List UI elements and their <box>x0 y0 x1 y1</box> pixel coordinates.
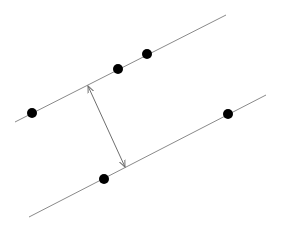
upper-point-3 <box>142 49 152 59</box>
parallel-lines-diagram <box>0 0 286 225</box>
lower-point-1 <box>99 174 109 184</box>
margin-double-arrow-icon <box>88 86 125 167</box>
upper-point-2 <box>113 64 123 74</box>
points-layer <box>27 49 233 184</box>
upper-point-1 <box>27 108 37 118</box>
margin-arrow-layer <box>88 86 125 167</box>
lower-point-2 <box>223 109 233 119</box>
